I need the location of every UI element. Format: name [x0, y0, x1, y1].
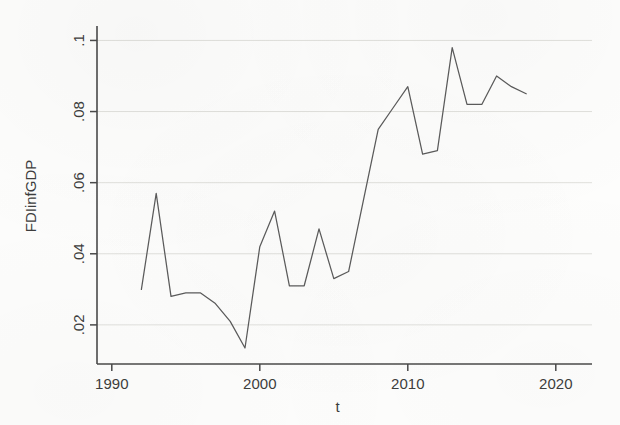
x-tick-label: 1990: [95, 375, 128, 392]
x-tick-label: 2020: [539, 375, 572, 392]
y-tick-label: .08: [70, 101, 87, 122]
x-tick-label: 2010: [391, 375, 424, 392]
data-series-line: [141, 48, 526, 348]
y-tick-label: .04: [70, 243, 87, 264]
chart-container: .02.04.06.08.1 1990200020102020 t FDIinf…: [0, 0, 620, 425]
x-tick-label: 2000: [243, 375, 276, 392]
y-tick-label: .06: [70, 172, 87, 193]
x-tick-group: 1990200020102020: [95, 364, 572, 392]
y-axis-title: FDIinfGDP: [22, 160, 39, 233]
y-tick-label: .02: [70, 314, 87, 335]
line-chart: .02.04.06.08.1 1990200020102020 t FDIinf…: [0, 0, 620, 425]
y-tick-group: .02.04.06.08.1: [70, 34, 97, 335]
axes-group: [97, 26, 592, 364]
y-tick-label: .1: [70, 34, 87, 47]
gridlines-group: [97, 40, 592, 324]
x-axis-title: t: [335, 398, 340, 415]
